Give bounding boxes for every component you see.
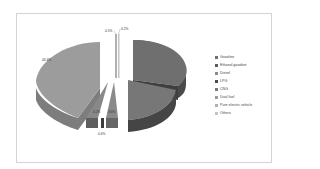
legend-swatch xyxy=(215,64,218,67)
legend-label: Pure electric vehicle xyxy=(220,103,252,107)
label-diesel: 3.6% xyxy=(108,110,115,114)
legend-label: Diesel xyxy=(220,71,230,75)
legend-swatch xyxy=(215,112,218,115)
slice-diesel xyxy=(106,82,118,128)
legend-item-others: Others xyxy=(215,109,275,117)
legend-item-gasoline: Gasoline xyxy=(215,53,275,61)
legend-label: CNG xyxy=(220,87,228,91)
legend-label: Others xyxy=(220,111,231,115)
label-cng: 4.2% xyxy=(93,110,100,114)
label-others: 0.2% xyxy=(121,27,128,31)
legend-label: Gasoline xyxy=(220,55,234,59)
legend-label: Ethanol gasoline xyxy=(220,63,247,67)
legend-item-pure-electric: Pure electric vehicle xyxy=(215,101,275,109)
legend-item-dual-fuel: Dual fuel xyxy=(215,93,275,101)
label-lpg: 0.6% xyxy=(98,132,105,136)
legend-swatch xyxy=(215,80,218,83)
legend-swatch xyxy=(215,104,218,107)
legend-item-ethanol-gasoline: Ethanol gasoline xyxy=(215,61,275,69)
legend-swatch xyxy=(215,96,218,99)
label-dual-fuel: 43.4% xyxy=(42,58,51,62)
slice-pure-electric xyxy=(115,34,117,78)
legend-label: Dual fuel xyxy=(220,95,234,99)
legend-swatch xyxy=(215,72,218,75)
chart-legend: Gasoline Ethanol gasoline Diesel LPG CNG… xyxy=(215,53,275,117)
legend-swatch xyxy=(215,88,218,91)
slice-others xyxy=(118,34,120,78)
legend-item-lpg: LPG xyxy=(215,77,275,85)
legend-item-cng: CNG xyxy=(215,85,275,93)
legend-item-diesel: Diesel xyxy=(215,69,275,77)
slice-lpg xyxy=(101,118,104,128)
legend-swatch xyxy=(215,56,218,59)
legend-label: LPG xyxy=(220,79,227,83)
label-pure-electric: 0.5% xyxy=(105,29,112,33)
